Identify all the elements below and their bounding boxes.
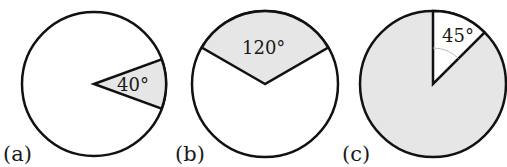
sector-diagrams: 40° (a) 120° (b) 45° (c) bbox=[0, 0, 507, 167]
panel-b: 120° (b) bbox=[175, 11, 338, 166]
panel-c: 45° (c) bbox=[342, 11, 506, 166]
angle-label-a: 40° bbox=[117, 74, 149, 95]
panel-label-a: (a) bbox=[3, 142, 32, 166]
panel-a: 40° (a) bbox=[3, 12, 166, 166]
angle-label-b: 120° bbox=[242, 37, 285, 58]
panel-label-c: (c) bbox=[342, 142, 370, 166]
angle-label-c: 45° bbox=[442, 25, 474, 46]
panel-label-b: (b) bbox=[175, 142, 205, 166]
